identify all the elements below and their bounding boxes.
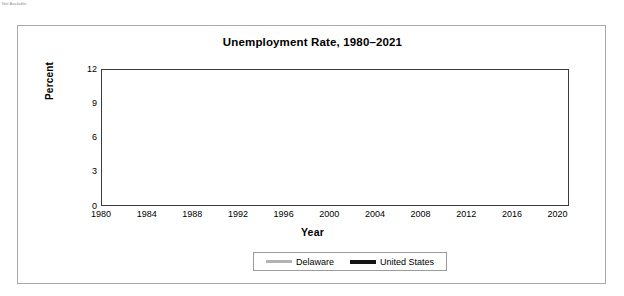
x-tick-label: 2004 — [355, 210, 395, 219]
plot-frame — [101, 69, 569, 206]
legend-entry-united-states[interactable]: United States — [350, 257, 434, 267]
legend-entry-delaware[interactable]: Delaware — [266, 257, 334, 267]
y-tick-label: 12 — [73, 65, 97, 74]
x-tick-label: 1988 — [172, 210, 212, 219]
x-axis-title: Year — [18, 226, 607, 238]
y-tick-label: 6 — [73, 133, 97, 142]
x-tick-label: 1996 — [264, 210, 304, 219]
x-axis-tick-labels: 1980198419881992199620002004200820122016… — [101, 210, 569, 222]
y-tick-label: 9 — [73, 99, 97, 108]
x-tick-label: 2000 — [309, 210, 349, 219]
header-fragment: Not Available — [2, 1, 27, 6]
chart-legend: DelawareUnited States — [253, 252, 447, 271]
legend-label: Delaware — [296, 257, 334, 267]
x-tick-label: 2008 — [401, 210, 441, 219]
x-tick-label: 2020 — [538, 210, 578, 219]
chart-card: Unemployment Rate, 1980–2021 Percent 036… — [17, 25, 606, 284]
y-tick-label: 3 — [73, 167, 97, 176]
y-axis-title: Percent — [44, 62, 55, 100]
x-tick-label: 1984 — [127, 210, 167, 219]
plot-area — [101, 69, 569, 206]
x-tick-label: 2016 — [492, 210, 532, 219]
legend-label: United States — [380, 257, 434, 267]
x-tick-label: 2012 — [446, 210, 486, 219]
legend-swatch-icon — [266, 260, 292, 263]
x-tick-label: 1992 — [218, 210, 258, 219]
chart-title: Unemployment Rate, 1980–2021 — [18, 36, 607, 48]
y-axis-tick-labels: 036912 — [73, 64, 97, 211]
x-tick-label: 1980 — [81, 210, 121, 219]
legend-swatch-icon — [350, 260, 376, 264]
